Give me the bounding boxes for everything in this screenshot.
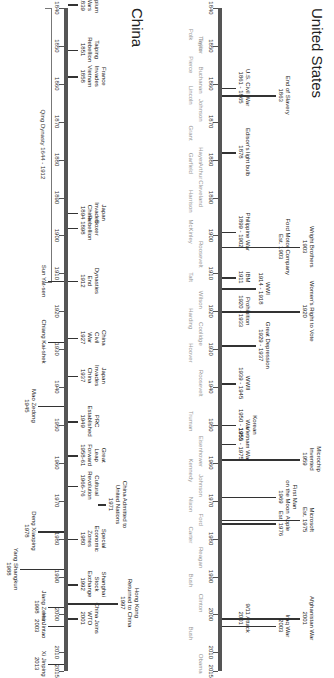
us-year-label: 1930 bbox=[208, 342, 214, 355]
china-leader-label: Hu Jintao 2003 bbox=[33, 613, 47, 638]
us-year-label: 1950 bbox=[208, 418, 214, 431]
event-marker bbox=[68, 338, 78, 340]
leader-marker bbox=[48, 281, 64, 283]
president-name: Lincoln bbox=[188, 86, 194, 105]
china-year-label: 1900 bbox=[54, 229, 60, 242]
president-name: Cleveland bbox=[198, 180, 204, 207]
event-marker bbox=[222, 425, 236, 427]
us-year-label: 1840 bbox=[208, 1, 214, 14]
china-year-label: 1890 bbox=[54, 191, 60, 204]
china-far-event-label: Hong Kong Returned to China 1997 bbox=[119, 579, 140, 628]
us-event-label: End of Slavery 1863 bbox=[277, 76, 291, 115]
china-year-label: 1970 bbox=[54, 494, 60, 507]
president-name: Ford bbox=[198, 513, 204, 525]
us-year-label: 1910 bbox=[208, 267, 214, 280]
event-marker bbox=[222, 95, 276, 97]
event-marker bbox=[68, 486, 78, 488]
president-name: Taft bbox=[188, 272, 194, 282]
president-name: Harrison bbox=[188, 190, 194, 213]
leader-marker bbox=[48, 664, 64, 666]
president-name: Clinton bbox=[198, 594, 204, 613]
event-marker bbox=[68, 213, 78, 215]
us-event-label: Prohibition 1920 - 1933 bbox=[237, 295, 251, 327]
china-year-label: 1930 bbox=[54, 342, 60, 355]
event-marker bbox=[68, 455, 78, 457]
president-name: Hoover bbox=[188, 343, 194, 362]
us-year-label: 1850 bbox=[208, 39, 214, 52]
china-year-label: 1860 bbox=[54, 77, 60, 90]
event-marker bbox=[222, 383, 236, 385]
president-name: Harding bbox=[188, 308, 194, 329]
dynasty-bracket bbox=[45, 8, 52, 283]
event-marker bbox=[222, 232, 236, 234]
china-year-label: 1960 bbox=[54, 456, 60, 469]
china-year-label: 1990 bbox=[54, 570, 60, 583]
event-marker bbox=[222, 247, 300, 249]
us-event-label: First Man on the Moon 1969 bbox=[277, 480, 298, 513]
us-event-label: Microsoft Est. 1975 bbox=[301, 507, 315, 532]
event-marker bbox=[222, 88, 236, 90]
president-name: Buchanan bbox=[198, 66, 204, 93]
china-far-event-label: China Admitted to United Nations 1971 bbox=[107, 481, 128, 528]
us-event-label: Women's Right to Vote 1920 bbox=[301, 281, 315, 342]
china-year-label: 2010 bbox=[54, 646, 60, 659]
china-axis bbox=[64, 8, 68, 671]
president-name: Truman bbox=[188, 411, 194, 431]
china-event-label: Shanghai Stock Exchange 1992 bbox=[79, 571, 107, 598]
president-name: Eisenhower bbox=[198, 436, 204, 467]
us-event-label: Vietnam War 1955 - 1975 bbox=[237, 427, 251, 461]
china-event-label: Japan Invades China 1937 bbox=[79, 365, 107, 386]
us-year-label: 1960 bbox=[208, 456, 214, 469]
president-name: Garfield bbox=[188, 153, 194, 174]
president-name: Kennedy bbox=[188, 459, 194, 483]
leader-marker bbox=[48, 607, 64, 609]
china-event-label: Boxer Rebellion 1898 bbox=[79, 215, 100, 240]
leader-marker bbox=[38, 531, 64, 533]
china-year-label: 1840 bbox=[54, 1, 60, 14]
president-name: Pierce bbox=[188, 56, 194, 73]
event-marker bbox=[68, 603, 118, 605]
president-name: Roosevelt bbox=[198, 241, 204, 268]
event-marker bbox=[68, 281, 78, 283]
us-event-label: Apple Est. 1976 bbox=[277, 511, 291, 536]
china-event-label: Special Economic Zones 1980 bbox=[79, 525, 107, 551]
president-name: Taylor bbox=[198, 38, 204, 54]
us-event-label: Great Depression 1929 - 1937 bbox=[257, 322, 271, 369]
us-event-label: Iraq War 2003 bbox=[277, 614, 291, 637]
china-year-label: 1870 bbox=[54, 115, 60, 128]
china-leader-label: Chiang Kai-shek bbox=[40, 320, 47, 364]
us-event-label: Wright Brothers 1903 bbox=[301, 226, 315, 268]
event-marker bbox=[68, 76, 78, 78]
leader-marker bbox=[48, 342, 64, 344]
us-year-label: 1870 bbox=[208, 115, 214, 128]
us-event-label: Edison's light bulb 1878 bbox=[237, 128, 251, 176]
us-event-label: U.S. Civil War 1861 - 1865 bbox=[237, 69, 251, 106]
us-year-label: 1880 bbox=[208, 153, 214, 166]
event-marker bbox=[222, 311, 236, 313]
event-marker bbox=[68, 584, 78, 586]
us-title: United States bbox=[309, 8, 326, 98]
us-year-label: 2010 bbox=[208, 646, 214, 659]
president-name: Reagan bbox=[198, 547, 204, 568]
china-leader-label: Mao Zedong 1945 bbox=[23, 389, 37, 423]
china-year-label: 1940 bbox=[54, 380, 60, 393]
us-year-label: 1940 bbox=[208, 380, 214, 393]
us-year-label: 1970 bbox=[208, 494, 214, 507]
china-year-label: 2015 bbox=[54, 665, 60, 678]
china-leader-label: Yang Shangkun 1988 bbox=[5, 548, 19, 590]
china-event-label: China Joins WTO 2001 bbox=[79, 603, 100, 634]
president-name: Wilson bbox=[198, 291, 204, 309]
leader-marker bbox=[20, 569, 64, 571]
china-year-label: 1950 bbox=[54, 418, 60, 431]
event-marker bbox=[222, 497, 276, 499]
china-leader-label: Deng Xiaoping 1978 bbox=[23, 511, 37, 550]
event-marker bbox=[222, 288, 256, 290]
us-event-label: IBM 1911 bbox=[237, 271, 251, 284]
us-year-label: 2000 bbox=[208, 608, 214, 621]
event-marker bbox=[222, 444, 236, 446]
china-year-label: 1910 bbox=[54, 267, 60, 280]
china-year-label: 2000 bbox=[54, 608, 60, 621]
us-event-label: WWII 1939 - 1945 bbox=[237, 367, 251, 399]
china-leader-label: Xi Jinping 2013 bbox=[33, 651, 47, 677]
president-name: Bush bbox=[188, 573, 194, 587]
